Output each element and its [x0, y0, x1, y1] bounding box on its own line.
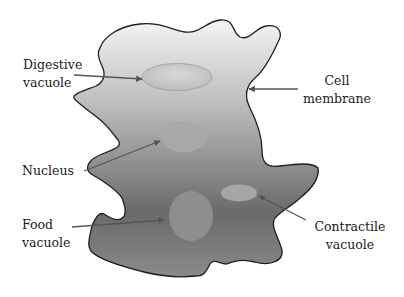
label-digestive-vacuole: Digestive vacuole — [23, 56, 82, 92]
food-vacuole — [169, 191, 213, 241]
label-contractile-vacuole: Contractile vacuole — [310, 218, 390, 254]
label-line: vacuole — [22, 234, 71, 252]
label-line: membrane — [300, 90, 374, 108]
label-line: Food — [22, 216, 71, 234]
label-nucleus: Nucleus — [22, 162, 74, 180]
label-line: Digestive — [23, 56, 82, 74]
label-line: vacuole — [310, 236, 390, 254]
label-line: Cell — [300, 72, 374, 90]
label-line: Contractile — [310, 218, 390, 236]
label-line: vacuole — [23, 74, 82, 92]
contractile-vacuole — [221, 185, 257, 202]
label-cell-membrane: Cell membrane — [300, 72, 374, 108]
label-line: Nucleus — [22, 162, 74, 180]
label-food-vacuole: Food vacuole — [22, 216, 71, 252]
digestive-vacuole — [142, 64, 212, 91]
